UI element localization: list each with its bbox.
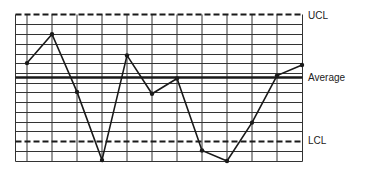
- data-point: [300, 63, 304, 67]
- control-chart-svg: UCL Average LCL: [0, 0, 366, 176]
- limit-labels: UCL Average LCL: [308, 10, 346, 146]
- data-point: [200, 148, 204, 152]
- data-series: [25, 32, 304, 163]
- data-point: [150, 92, 154, 96]
- data-point: [225, 159, 229, 163]
- average-label: Average: [308, 72, 346, 83]
- lcl-label: LCL: [308, 135, 327, 146]
- data-point: [175, 76, 179, 80]
- control-chart: UCL Average LCL: [0, 0, 366, 176]
- data-point: [75, 90, 79, 94]
- data-point: [275, 73, 279, 77]
- data-point: [100, 158, 104, 162]
- ucl-label: UCL: [308, 10, 328, 21]
- data-point: [50, 32, 54, 36]
- data-point: [25, 61, 29, 65]
- data-point: [250, 120, 254, 124]
- data-point: [125, 53, 129, 57]
- grid: [16, 15, 303, 162]
